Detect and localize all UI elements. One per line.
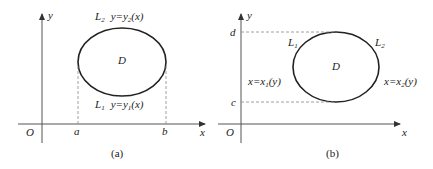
origin-label: O xyxy=(26,126,34,138)
left-curve-name: L1 xyxy=(287,36,298,50)
y-axis-label: y xyxy=(47,9,53,21)
bound-bottom-label: c xyxy=(231,96,236,108)
left-curve-eq: x=x1(y) xyxy=(247,75,281,89)
x-axis-label: x xyxy=(401,126,407,138)
right-curve-name: L2 xyxy=(374,36,385,50)
figure: y x O D a b L2y=y2(x) L1y=y1(x) (a) y x … xyxy=(0,0,433,169)
lower-curve-label: L1y=y1(x) xyxy=(94,98,144,112)
y-axis-label: y xyxy=(246,9,252,21)
upper-curve-label: L2y=y2(x) xyxy=(94,10,144,24)
caption-b: (b) xyxy=(326,147,339,160)
bound-top-label: d xyxy=(230,26,236,38)
panel-b: y x O D d c L1 L2 x=x1(y) x=x2(y) (b) xyxy=(218,9,417,160)
region-label: D xyxy=(331,60,340,72)
caption-a: (a) xyxy=(111,147,124,160)
right-curve-eq: x=x2(y) xyxy=(383,75,417,89)
panel-a: y x O D a b L2y=y2(x) L1y=y1(x) (a) xyxy=(18,9,205,160)
origin-label: O xyxy=(226,126,234,138)
region-label: D xyxy=(117,54,126,66)
x-axis-label: x xyxy=(199,126,205,138)
bound-right-label: b xyxy=(162,125,168,137)
bound-left-label: a xyxy=(74,125,80,137)
